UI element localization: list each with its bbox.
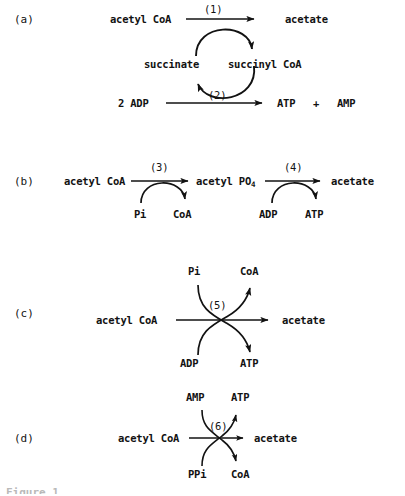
panel-label-d: (d) — [14, 432, 34, 445]
panel-b-step3-arc — [141, 183, 185, 203]
panel-b-step4-cosubstrate-out: ATP — [305, 208, 323, 220]
figure-canvas: (a) acetyl CoA (1) acetate succinate suc… — [0, 0, 405, 496]
panel-b-intermediate: acetyl PO4 — [196, 175, 255, 189]
panel-d-product: acetate — [254, 432, 297, 444]
panel-c-product: acetate — [282, 314, 325, 326]
panel-c-cosubstrate-top-left: Pi — [188, 265, 200, 277]
panel-a-secondary-product-2: AMP — [337, 97, 355, 109]
panel-c-cosubstrate-bottom-right: ATP — [240, 357, 258, 369]
panel-d-cosubstrate-bottom-left: PPi — [188, 468, 206, 480]
panel-c-substrate: acetyl CoA — [96, 314, 157, 326]
panel-b-step-3: (3) — [150, 161, 168, 173]
panel-c-cosubstrate-top-right: CoA — [240, 265, 258, 277]
panel-a-intermediate-left: succinate — [144, 58, 199, 70]
panel-b-step-4: (4) — [284, 161, 302, 173]
panel-c-arc-pi-to-atp — [198, 285, 250, 352]
panel-b-step4-arc — [272, 183, 316, 203]
panel-a-substrate: acetyl CoA — [110, 13, 171, 25]
panel-b-step3-cosubstrate-in: Pi — [134, 208, 146, 220]
panel-b-intermediate-subscript: 4 — [251, 180, 255, 189]
panel-label-a: (a) — [14, 13, 34, 26]
panel-d-step-6: (6) — [209, 420, 227, 432]
panel-a-step-1: (1) — [204, 3, 222, 15]
panel-a-secondary-substrate: 2 ADP — [118, 97, 149, 109]
panel-a-product: acetate — [285, 13, 328, 25]
panel-b-step3-cosubstrate-out: CoA — [173, 208, 191, 220]
panel-a-intermediate-right: succinyl CoA — [228, 58, 301, 70]
panel-d-cosubstrate-bottom-right: CoA — [231, 468, 249, 480]
panel-d-substrate: acetyl CoA — [118, 432, 179, 444]
panel-a-arc-step1 — [196, 30, 252, 56]
panel-b-intermediate-base: acetyl PO — [196, 175, 251, 187]
reaction-arrows-layer — [0, 0, 405, 496]
panel-c-step-5: (5) — [208, 299, 226, 311]
panel-d-cosubstrate-top-left: AMP — [186, 391, 204, 403]
panel-d-cosubstrate-top-right: ATP — [231, 391, 249, 403]
panel-d-arc-amp-to-coa — [202, 410, 236, 461]
panel-a-secondary-product-1: ATP — [277, 97, 295, 109]
panel-c-cosubstrate-bottom-left: ADP — [180, 357, 198, 369]
figure-caption-partial: Figure 1. — [6, 486, 66, 494]
panel-b-step4-cosubstrate-in: ADP — [259, 208, 277, 220]
panel-label-c: (c) — [14, 307, 34, 320]
panel-label-b: (b) — [14, 175, 34, 188]
panel-a-plus-sign: + — [313, 97, 319, 109]
panel-a-step-2: (2) — [208, 89, 226, 101]
panel-b-product: acetate — [331, 175, 374, 187]
panel-b-substrate: acetyl CoA — [64, 175, 125, 187]
